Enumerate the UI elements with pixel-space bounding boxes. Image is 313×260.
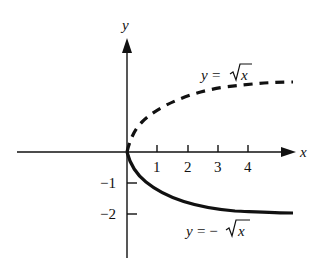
y-axis-label: y	[120, 17, 129, 33]
tick-x-4: 4	[244, 159, 252, 175]
tick-x-2: 2	[184, 159, 192, 175]
x-ticks	[157, 145, 248, 152]
x-axis-label: x	[299, 144, 307, 160]
tick-x-1: 1	[153, 159, 161, 175]
svg-text:= −: = −	[197, 223, 218, 239]
upper-curve-label: y = x	[199, 64, 252, 83]
curve-sqrt-x	[127, 82, 293, 152]
svg-text:x: x	[237, 223, 245, 239]
y-axis-arrow-icon	[122, 38, 132, 53]
svg-text:x: x	[240, 67, 248, 83]
tick-x-3: 3	[214, 159, 222, 175]
svg-text:y: y	[184, 223, 193, 239]
y-ticks	[127, 183, 137, 214]
curve-neg-sqrt-x	[127, 152, 293, 213]
x-axis-arrow-icon	[281, 147, 296, 157]
tick-y-neg1: −1	[100, 175, 116, 191]
svg-text:=: =	[212, 67, 220, 83]
svg-text:y: y	[199, 67, 208, 83]
sqrt-graph: x y 1 2 3 4 −1 −2 y = x y = − x	[0, 0, 313, 260]
tick-y-neg2: −2	[100, 206, 116, 222]
lower-curve-label: y = − x	[184, 220, 250, 239]
